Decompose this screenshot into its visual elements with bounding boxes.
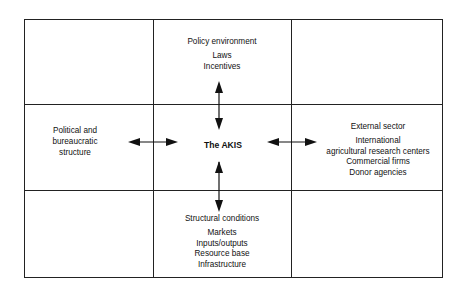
arrow-left-right-right — [267, 138, 317, 146]
arrow-up-down-top — [215, 81, 223, 130]
arrows-layer — [0, 0, 466, 292]
arrow-up-down-bottom — [215, 161, 223, 212]
arrow-left-right-left — [128, 138, 178, 146]
